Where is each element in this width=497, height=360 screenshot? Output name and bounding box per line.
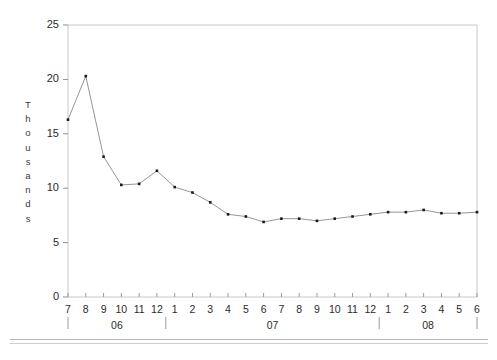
bottom-rule-upper [10, 339, 488, 340]
bottom-rule-lower [10, 343, 488, 344]
y-axis-title-letter: d [17, 197, 39, 211]
data-series-line [68, 76, 477, 222]
y-axis-title-letter: h [17, 112, 39, 126]
y-axis-title-letter: T [17, 98, 39, 112]
x-axis-tick-label: 6 [467, 304, 487, 315]
y-axis-tick-label: 15 [33, 128, 59, 139]
y-axis-title: T h o u s a n d s [17, 98, 39, 226]
line-chart-figure: T h o u s a n d s 0510152025 78910111212… [0, 0, 497, 360]
y-axis-title-letter: s [17, 155, 39, 169]
x-axis-year-label: 07 [251, 320, 295, 331]
y-axis-tick-label: 20 [33, 73, 59, 84]
y-axis-tick-label: 5 [33, 237, 59, 248]
y-axis-tick-label: 0 [33, 291, 59, 302]
y-axis-tick-marks [63, 25, 68, 297]
data-series-markers [67, 75, 479, 223]
x-axis-year-label: 06 [95, 320, 139, 331]
y-axis-title-letter: s [17, 212, 39, 226]
y-axis-tick-label: 10 [33, 182, 59, 193]
x-axis-year-label: 08 [406, 320, 450, 331]
y-axis-title-letter: u [17, 141, 39, 155]
y-axis-tick-label: 25 [33, 19, 59, 30]
y-axis-title-letter: a [17, 169, 39, 183]
plot-frame [68, 25, 477, 297]
x-axis-tick-marks [68, 293, 477, 297]
